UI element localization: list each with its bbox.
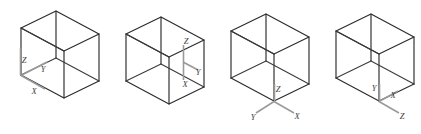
figure-container: Z Y X Z Y: [0, 0, 421, 134]
box-2-edge-back-left-bottom: [126, 64, 161, 81]
box-1: Z Y X: [21, 11, 100, 98]
box-2-edges: [126, 17, 204, 104]
box-4-axis-triad: Y X Z: [372, 83, 405, 121]
box-3-y-axis-label: Y: [251, 112, 257, 122]
box-2-y-axis-label: Y: [196, 67, 202, 77]
box-4-top-face: [336, 14, 414, 54]
box-3-y-axis-line: [256, 102, 274, 114]
box-2-bottom-face: [126, 81, 204, 104]
box-4-z-axis-line: [379, 102, 399, 114]
box-1-axis-triad: Z Y X: [21, 48, 48, 96]
box-1-z-axis-label: Z: [22, 55, 27, 65]
box-1-y-axis-label: Y: [41, 64, 47, 74]
box-3-edge-left-front-top: [231, 31, 274, 54]
box-3-top-face: [231, 14, 309, 54]
box-4-y-axis-label: Y: [372, 83, 378, 93]
box-3-x-axis-line: [274, 102, 294, 114]
box-2-x-axis-label: X: [181, 79, 188, 89]
box-3-edges: [231, 14, 309, 101]
box-4-edge-back-right-bottom: [371, 61, 414, 84]
box-4: Y X Z: [336, 14, 414, 121]
box-3-bottom-face: [231, 78, 309, 101]
isometric-boxes-diagram: Z Y X Z Y: [0, 0, 421, 134]
box-4-edge-back-left-bottom: [336, 61, 371, 78]
box-2-axis-triad: Z Y X: [181, 36, 201, 89]
box-1-edge-back-right-bottom: [56, 58, 99, 81]
box-1-edge-left-front-top: [21, 28, 64, 51]
box-3: Z Y X: [231, 14, 309, 122]
box-3-edge-back-left-bottom: [231, 61, 266, 78]
box-4-z-axis-label: Z: [400, 111, 405, 121]
box-1-top-face: [21, 11, 99, 51]
box-3-z-axis-label: Z: [276, 84, 281, 94]
box-1-x-axis-label: X: [30, 86, 37, 96]
box-2: Z Y X: [126, 17, 204, 104]
box-2-top-face: [126, 17, 204, 57]
box-1-edges: [21, 11, 99, 98]
box-2-z-axis-label: Z: [184, 36, 189, 46]
box-4-x-axis-label: X: [389, 90, 396, 100]
box-2-edge-left-front-top: [126, 34, 169, 57]
box-4-edge-left-front-top: [336, 31, 379, 54]
box-3-edge-back-right-bottom: [266, 61, 309, 84]
box-3-axis-triad: Z Y X: [251, 84, 301, 122]
box-3-x-axis-label: X: [293, 111, 300, 121]
